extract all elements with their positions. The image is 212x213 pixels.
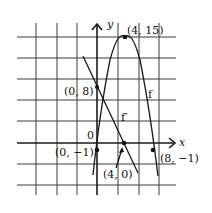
point-8-neg1 — [151, 148, 156, 153]
origin-label: 0 — [87, 129, 94, 142]
label-point-0-8: (0, 8) — [64, 85, 94, 98]
f-curve — [93, 36, 158, 176]
point-0-8 — [95, 85, 99, 89]
point-4-0 — [122, 141, 127, 146]
label-point-max: (4, 15) — [127, 24, 164, 37]
label-point-8-neg1: (8, −1) — [160, 152, 199, 165]
label-point-0-neg1: (0, −1) — [55, 146, 94, 159]
label-f-prime: f′ — [121, 111, 128, 124]
x-axis-label: x — [179, 136, 186, 149]
pointer-arrow-icon — [116, 147, 124, 168]
label-point-4-0: (4, 0) — [103, 168, 133, 181]
diagram-canvas: y x 0 (4, 15) (0, 8) (0, −1) (4, 0) (8, … — [0, 0, 212, 213]
label-f: f — [148, 88, 153, 101]
y-axis-label: y — [106, 18, 114, 31]
point-0-neg1 — [95, 148, 100, 153]
function-graph: y x 0 (4, 15) (0, 8) (0, −1) (4, 0) (8, … — [0, 0, 212, 213]
